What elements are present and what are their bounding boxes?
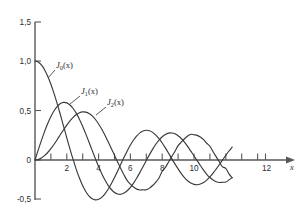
bessel-function-chart: 1,5 1,0 0,5 0 -0,5 2 4 6 8 10 12 x J0(x)… bbox=[0, 0, 302, 214]
curve-label-j2: J2(x) bbox=[107, 97, 124, 108]
x-tick-label-2: 2 bbox=[65, 164, 70, 173]
curve-label-j1: J1(x) bbox=[81, 86, 98, 97]
x-tick-label-10: 10 bbox=[189, 164, 199, 173]
curve-j1 bbox=[35, 102, 232, 194]
y-tick-label-1-5: 1,5 bbox=[20, 18, 32, 27]
x-tick-label-12: 12 bbox=[262, 164, 272, 173]
curve-label-j2-arg: (x) bbox=[114, 97, 124, 107]
leader-line-j2 bbox=[96, 107, 106, 115]
x-tick-label-6: 6 bbox=[128, 164, 133, 173]
leader-line-j0 bbox=[48, 70, 55, 78]
curve-j0 bbox=[35, 61, 232, 200]
curve-label-j0-arg: (x) bbox=[63, 60, 73, 70]
y-tick-label-0-5: 0,5 bbox=[20, 107, 32, 116]
curve-label-j0: J0(x) bbox=[56, 60, 73, 71]
y-tick-label-0: 0 bbox=[26, 156, 31, 165]
y-tick-label-1-0: 1,0 bbox=[20, 57, 32, 66]
curve-j2 bbox=[35, 112, 232, 190]
leader-line-j1 bbox=[70, 96, 80, 104]
x-axis-label: x bbox=[289, 162, 294, 172]
curve-label-j1-arg: (x) bbox=[88, 86, 98, 96]
y-axis-ticks bbox=[35, 22, 41, 199]
plot-area: 1,5 1,0 0,5 0 -0,5 2 4 6 8 10 12 x J0(x)… bbox=[0, 0, 302, 214]
y-tick-label-minus-0-5: -0,5 bbox=[17, 195, 32, 204]
x-axis-ticks bbox=[51, 154, 266, 161]
